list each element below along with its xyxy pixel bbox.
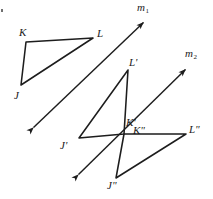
line-label-m2-subscript: 2 [193,53,197,61]
vertex-label-l-double-prime: L" [189,124,200,135]
line-label-m2: m2 [185,48,196,59]
line-label-m1: m1 [137,2,148,13]
vertex-label-j-prime: J' [60,140,67,151]
vertex-label-l-prime: L' [129,57,137,68]
line-label-m2-base: m [185,47,193,59]
vertex-label-l: L [97,28,103,39]
triangle-j-prime-k-prime-l-prime [79,70,128,138]
vertex-label-j-double-prime: J" [107,180,117,191]
geometry-figure: K J L K' J' L' K" J" L" m1 m2 [0,0,213,199]
triangle-jkl [21,38,93,85]
vertex-label-k-double-prime: K" [133,125,145,136]
vertex-label-j: J [14,90,19,101]
line-label-m1-base: m [137,1,145,13]
line-label-m1-subscript: 1 [145,7,149,15]
vertex-label-k: K [19,27,26,38]
geometry-canvas [0,0,213,199]
triangle-j-double-prime-k-double-prime-l-double-prime [116,134,186,178]
